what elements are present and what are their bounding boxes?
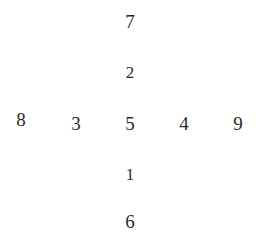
number-bottom-outer: 6 bbox=[118, 210, 142, 234]
number-right-inner: 4 bbox=[172, 112, 196, 136]
number-top-outer: 7 bbox=[118, 10, 142, 34]
number-left-inner: 3 bbox=[64, 112, 88, 136]
number-bottom-inner: 1 bbox=[118, 163, 142, 187]
number-top-inner: 2 bbox=[118, 61, 142, 85]
number-center: 5 bbox=[118, 112, 142, 136]
number-left-outer: 8 bbox=[9, 108, 33, 132]
number-right-outer: 9 bbox=[226, 112, 250, 136]
